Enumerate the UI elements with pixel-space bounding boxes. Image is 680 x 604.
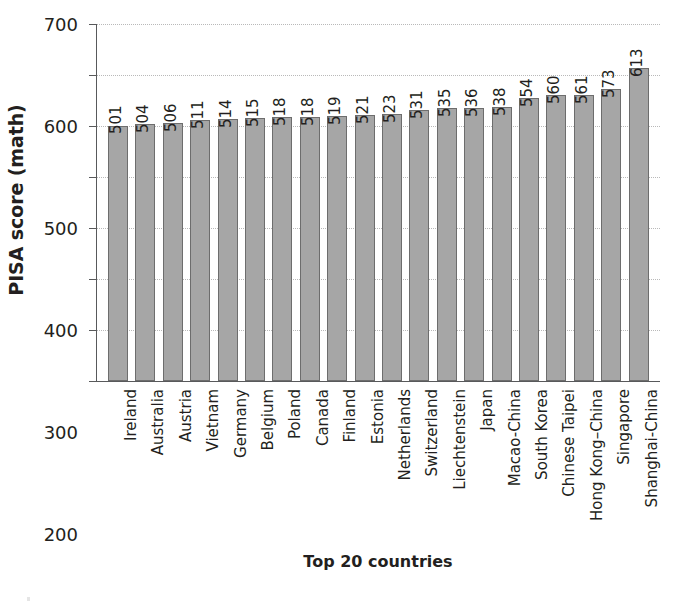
bar-value-label: 573 bbox=[602, 69, 617, 98]
y-tick-label: 700 bbox=[44, 16, 78, 34]
y-axis-title: PISA score (math) bbox=[0, 0, 32, 400]
x-tick-label: Netherlands bbox=[398, 389, 413, 480]
bar-value-label: 519 bbox=[328, 97, 343, 126]
bar[interactable] bbox=[108, 126, 128, 382]
bar[interactable] bbox=[492, 107, 512, 381]
bar-value-label: 504 bbox=[136, 104, 151, 133]
gridline bbox=[96, 24, 660, 25]
bar-value-label: 518 bbox=[301, 97, 316, 126]
bar-value-label: 514 bbox=[219, 99, 234, 128]
bar[interactable] bbox=[437, 108, 457, 381]
pisa-math-bar-chart: PISA score (math) 0100200300400500600700… bbox=[0, 0, 680, 604]
y-axis-title-text: PISA score (math) bbox=[5, 104, 27, 295]
x-tick-label: Estonia bbox=[371, 389, 386, 444]
bar[interactable] bbox=[300, 117, 320, 381]
y-tick-mark: 300 bbox=[89, 228, 96, 229]
bar-value-label: 518 bbox=[273, 97, 288, 126]
plot-area: 0100200300400500600700 50150450651151451… bbox=[96, 24, 660, 381]
bar-value-label: 515 bbox=[246, 99, 261, 128]
x-tick-label: Australia bbox=[151, 389, 166, 455]
x-axis-title: Top 20 countries bbox=[96, 552, 660, 571]
x-tick-label: Canada bbox=[316, 389, 331, 446]
bar[interactable] bbox=[355, 115, 375, 381]
bar[interactable] bbox=[601, 89, 621, 381]
bar[interactable] bbox=[163, 123, 183, 381]
y-tick-label: 300 bbox=[44, 424, 78, 442]
bar[interactable] bbox=[409, 110, 429, 381]
x-tick-label: Hong Kong–China bbox=[590, 389, 605, 521]
x-tick-label: Switzerland bbox=[425, 389, 440, 477]
bar[interactable] bbox=[519, 98, 539, 381]
bar-value-label: 536 bbox=[465, 88, 480, 117]
y-tick-mark: 200 bbox=[89, 279, 96, 280]
y-tick-label: 400 bbox=[44, 322, 78, 340]
bar[interactable] bbox=[629, 68, 649, 381]
x-axis-line bbox=[96, 381, 660, 382]
y-tick-mark: 600 bbox=[89, 75, 96, 76]
bar-value-label: 538 bbox=[493, 87, 508, 116]
x-tick-label: Vietnam bbox=[206, 389, 221, 452]
x-tick-label: Austria bbox=[179, 389, 194, 442]
x-tick-label: Germany bbox=[234, 389, 249, 458]
y-tick-mark: 400 bbox=[89, 177, 96, 178]
y-tick-mark: 500 bbox=[89, 126, 96, 127]
bar[interactable] bbox=[190, 120, 210, 381]
bar[interactable] bbox=[546, 95, 566, 381]
x-tick-label: South Korea bbox=[535, 389, 550, 480]
bar-value-label: 523 bbox=[383, 95, 398, 124]
x-tick-label: Singapore bbox=[617, 389, 632, 465]
y-tick-mark: 0 bbox=[89, 381, 96, 382]
x-tick-label: Shanghai-China bbox=[645, 389, 660, 507]
y-tick-label: 200 bbox=[44, 526, 78, 544]
bar-value-label: 521 bbox=[356, 96, 371, 125]
x-tick-label: Finland bbox=[343, 389, 358, 443]
bar-value-label: 554 bbox=[520, 79, 535, 108]
bar-value-label: 613 bbox=[630, 49, 645, 78]
bar[interactable] bbox=[327, 116, 347, 381]
bar[interactable] bbox=[464, 108, 484, 381]
scan-speck bbox=[27, 597, 30, 601]
bar[interactable] bbox=[245, 118, 265, 381]
x-tick-label: Belgium bbox=[261, 389, 276, 451]
y-axis-line bbox=[96, 24, 97, 381]
bar[interactable] bbox=[574, 95, 594, 381]
bar-value-label: 511 bbox=[191, 101, 206, 130]
bar-value-label: 506 bbox=[164, 103, 179, 132]
x-tick-label: Ireland bbox=[124, 389, 139, 441]
bar-value-label: 535 bbox=[438, 89, 453, 118]
bar-value-label: 531 bbox=[410, 91, 425, 120]
bar-value-label: 560 bbox=[547, 76, 562, 105]
y-tick-label: 600 bbox=[44, 118, 78, 136]
x-tick-label: Chinese Taipei bbox=[562, 389, 577, 497]
bar-value-label: 561 bbox=[575, 75, 590, 104]
bar-value-label: 501 bbox=[109, 106, 124, 135]
bar[interactable] bbox=[135, 124, 155, 381]
y-tick-mark: 100 bbox=[89, 330, 96, 331]
x-tick-label: Macao-China bbox=[508, 389, 523, 486]
y-tick-label: 500 bbox=[44, 220, 78, 238]
x-tick-label: Liechtenstein bbox=[453, 389, 468, 490]
bar[interactable] bbox=[272, 117, 292, 381]
y-tick-mark: 700 bbox=[89, 24, 96, 25]
bar[interactable] bbox=[218, 119, 238, 381]
x-tick-label: Poland bbox=[288, 389, 303, 439]
x-tick-label: Japan bbox=[480, 389, 495, 431]
bar[interactable] bbox=[382, 114, 402, 381]
